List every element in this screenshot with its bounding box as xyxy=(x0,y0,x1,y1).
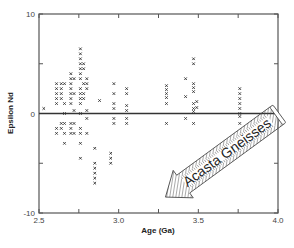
data-point-marker xyxy=(63,132,66,135)
data-point-marker xyxy=(192,102,195,105)
data-point-marker xyxy=(73,132,76,135)
data-point-marker xyxy=(192,110,195,113)
tick-labels: 2.53.03.54.0-10010 xyxy=(23,10,284,225)
data-point-marker xyxy=(60,127,63,130)
data-point-marker xyxy=(192,57,195,60)
data-point-marker xyxy=(79,97,82,100)
data-point-marker xyxy=(70,82,73,85)
data-point-marker xyxy=(165,92,168,95)
data-point-marker xyxy=(79,142,82,145)
data-point-marker xyxy=(93,147,96,150)
data-point-marker xyxy=(109,152,112,155)
data-point-marker xyxy=(55,87,58,90)
data-point-marker xyxy=(55,97,58,100)
data-point-marker xyxy=(79,87,82,90)
data-point-marker xyxy=(238,107,241,110)
data-point-marker xyxy=(79,57,82,60)
data-point-marker xyxy=(165,102,168,105)
data-point-marker xyxy=(60,92,63,95)
data-point-marker xyxy=(195,106,198,109)
data-point-marker xyxy=(184,117,187,120)
data-point-marker xyxy=(86,77,89,80)
data-point-marker xyxy=(70,97,73,100)
data-point-marker xyxy=(238,92,241,95)
data-point-marker xyxy=(192,86,195,89)
data-point-marker xyxy=(70,92,73,95)
data-point-marker xyxy=(55,82,58,85)
x-axis-title: Age (Ga) xyxy=(141,226,175,235)
data-point-marker xyxy=(70,102,73,105)
data-point-marker xyxy=(125,122,128,125)
y-tick-label: -10 xyxy=(23,209,35,218)
data-point-marker xyxy=(63,102,66,105)
data-point-marker xyxy=(113,102,116,105)
data-point-marker xyxy=(79,102,82,105)
acasta-gneisses-arrow: Acasta Gneisses xyxy=(155,100,289,211)
data-point-marker xyxy=(60,82,63,85)
x-tick-label: 4.0 xyxy=(272,216,284,225)
data-point-marker xyxy=(79,53,82,56)
data-point-marker xyxy=(165,122,168,125)
data-point-marker xyxy=(60,87,63,90)
data-point-marker xyxy=(79,77,82,80)
data-point-marker xyxy=(93,172,96,175)
data-point-marker xyxy=(113,122,116,125)
data-point-marker xyxy=(125,87,128,90)
data-point-marker xyxy=(82,62,85,65)
data-point-marker xyxy=(55,132,58,135)
data-point-marker xyxy=(73,122,76,125)
data-point-marker xyxy=(86,109,89,112)
data-point-marker xyxy=(42,107,45,110)
y-tick-label: 0 xyxy=(31,110,36,119)
data-point-marker xyxy=(70,132,73,135)
data-point-marker xyxy=(63,142,66,145)
data-point-marker xyxy=(55,102,58,105)
data-point-marker xyxy=(192,62,195,65)
data-point-marker xyxy=(238,115,241,118)
data-point-marker xyxy=(63,122,66,125)
data-point-marker xyxy=(195,100,198,103)
data-point-marker xyxy=(238,87,241,90)
data-point-marker xyxy=(98,99,101,102)
data-point-marker xyxy=(192,90,195,93)
data-point-marker xyxy=(86,117,89,120)
data-point-marker xyxy=(79,132,82,135)
data-point-marker xyxy=(238,122,241,125)
data-point-marker xyxy=(93,177,96,180)
data-point-marker xyxy=(93,182,96,185)
data-point-marker xyxy=(70,77,73,80)
data-point-marker xyxy=(184,95,187,98)
data-point-marker xyxy=(109,162,112,165)
data-point-marker xyxy=(93,162,96,165)
data-point-marker xyxy=(125,92,128,95)
data-point-marker xyxy=(60,97,63,100)
data-point-marker xyxy=(79,48,82,51)
x-tick-label: 2.5 xyxy=(33,216,45,225)
data-point-marker xyxy=(184,77,187,80)
data-point-marker xyxy=(79,157,82,160)
data-point-marker xyxy=(70,127,73,130)
data-point-marker xyxy=(73,92,76,95)
data-point-marker xyxy=(113,92,116,95)
data-point-marker xyxy=(70,87,73,90)
data-point-marker xyxy=(238,97,241,100)
data-point-marker xyxy=(192,107,195,110)
scatter-chart: 2.53.03.54.0-10010 Acasta Gneisses Age (… xyxy=(0,0,294,248)
data-point-marker xyxy=(82,92,85,95)
data-point-marker xyxy=(86,82,89,85)
data-point-marker xyxy=(79,127,82,130)
x-tick-label: 3.0 xyxy=(113,216,125,225)
data-point-marker xyxy=(73,77,76,80)
data-point-marker xyxy=(113,107,116,110)
data-point-marker xyxy=(63,82,66,85)
data-point-marker xyxy=(79,92,82,95)
data-point-marker xyxy=(86,87,89,90)
data-point-marker xyxy=(79,72,82,75)
data-point-marker xyxy=(82,97,85,100)
data-point-marker xyxy=(70,122,73,125)
data-point-marker xyxy=(192,82,195,85)
data-point-marker xyxy=(165,88,168,91)
x-tick-label: 3.5 xyxy=(193,216,205,225)
data-point-marker xyxy=(125,117,128,120)
data-point-marker xyxy=(70,72,73,75)
